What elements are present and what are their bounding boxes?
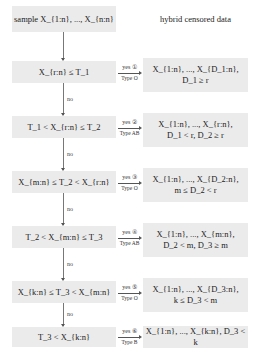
no-label-2: no (67, 151, 73, 157)
arrow-down-2 (63, 138, 64, 170)
arrow-right-icon (118, 73, 140, 74)
yes-label: yes ④ (118, 228, 141, 235)
condition-node-5: X_{k:n} ≤ T_3 < X_{m:n} (12, 281, 116, 303)
arrow-right-icon (118, 238, 140, 239)
result-node-5: X_{1:n}, ..., X_{D_3:n},k ≤ D_3 < m (143, 278, 248, 312)
yes-label: yes ⑤ (118, 283, 141, 290)
start-node: sample X_{1:n}, ..., X_{n:n} (12, 6, 116, 32)
arrow-down-0 (63, 32, 64, 60)
no-label-3: no (67, 206, 73, 212)
result-line2: D_1 < r, D_2 ≥ r (167, 130, 224, 141)
condition-text: X_{k:n} ≤ T_3 < X_{m:n} (18, 287, 111, 298)
result-line1: X_{1:n}, ..., X_{D_2:n}, (152, 174, 238, 185)
arrow-right-icon (118, 293, 140, 294)
yes-label: yes ① (118, 63, 141, 70)
type-label: Type O (118, 75, 141, 81)
result-line1: X_{1:n}, ..., X_{D_3:n}, (152, 284, 238, 295)
arrow-right-icon (118, 183, 140, 184)
arrow-down-5 (63, 303, 64, 326)
yes-edge-5: yes ⑤Type O (118, 283, 141, 307)
condition-text: T_1 < X_{r:n} ≤ T_2 (27, 122, 100, 133)
result-line1: X_{1:n}, ..., X_{k:n}, D_3 < k (143, 326, 248, 348)
arrow-right-icon (118, 337, 140, 338)
start-label: sample X_{1:n}, ..., X_{n:n} (14, 14, 114, 25)
no-label-4: no (67, 261, 73, 267)
result-line2: m ≤ D_2 < r (174, 185, 216, 196)
condition-node-1: X_{r:n} ≤ T_1 (12, 61, 116, 83)
condition-node-2: T_1 < X_{r:n} ≤ T_2 (12, 116, 116, 138)
result-line1: X_{1:n}, ..., X_{r:n}, (158, 119, 232, 130)
yes-edge-1: yes ①Type O (118, 63, 141, 87)
type-label: Type AB (118, 240, 141, 246)
yes-edge-4: yes ④Type AB (118, 228, 141, 252)
arrow-right-icon (118, 128, 140, 129)
result-line1: X_{1:n}, ..., X_{D_1:n}, (152, 64, 238, 75)
result-line2: D_1 ≥ r (182, 75, 208, 86)
yes-label: yes ② (118, 118, 141, 125)
condition-node-4: T_2 < X_{m:n} ≤ T_3 (12, 226, 116, 248)
arrow-down-1 (63, 83, 64, 115)
output-column-title: hybrid censored data (143, 14, 248, 24)
no-label-1: no (67, 96, 73, 102)
result-node-2: X_{1:n}, ..., X_{r:n},D_1 < r, D_2 ≥ r (143, 113, 248, 147)
type-label: Type AB (118, 130, 141, 136)
result-line2: D_2 < m, D_3 ≥ m (163, 240, 228, 251)
arrow-down-4 (63, 248, 64, 280)
condition-text: T_3 < X_{k:n} (38, 332, 90, 343)
type-label: Type O (118, 185, 141, 191)
condition-text: T_2 < X_{m:n} ≤ T_3 (26, 232, 103, 243)
arrow-down-3 (63, 193, 64, 225)
result-node-1: X_{1:n}, ..., X_{D_1:n},D_1 ≥ r (143, 58, 248, 92)
result-line1: X_{1:n}, ..., X_{m:n}, (156, 229, 234, 240)
condition-text: X_{m:n} ≤ T_2 < X_{r:n} (18, 177, 109, 188)
result-node-6: X_{1:n}, ..., X_{k:n}, D_3 < k (143, 326, 248, 348)
yes-edge-2: yes ②Type AB (118, 118, 141, 142)
condition-node-6: T_3 < X_{k:n} (12, 327, 116, 347)
no-label-5: no (67, 311, 73, 317)
yes-edge-3: yes ③Type O (118, 173, 141, 197)
result-node-3: X_{1:n}, ..., X_{D_2:n},m ≤ D_2 < r (143, 168, 248, 202)
result-node-4: X_{1:n}, ..., X_{m:n},D_2 < m, D_3 ≥ m (143, 223, 248, 257)
condition-node-3: X_{m:n} ≤ T_2 < X_{r:n} (12, 171, 116, 193)
result-line2: k ≤ D_3 < m (174, 295, 217, 306)
yes-label: yes ③ (118, 173, 141, 180)
type-label: Type O (118, 295, 141, 301)
yes-edge-6: yes ⑥Type B (118, 327, 141, 351)
condition-text: X_{r:n} ≤ T_1 (39, 67, 89, 78)
yes-label: yes ⑥ (118, 327, 141, 334)
type-label: Type B (118, 339, 141, 345)
